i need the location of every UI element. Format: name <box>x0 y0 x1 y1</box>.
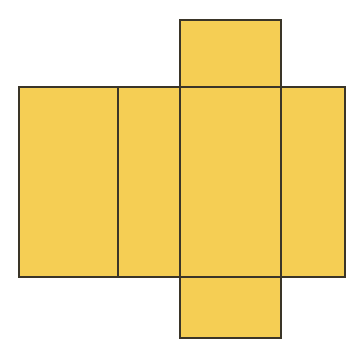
figure-canvas <box>0 0 364 355</box>
face-left-side <box>19 87 118 277</box>
face-front <box>180 87 281 277</box>
face-top <box>180 20 281 87</box>
face-right-side <box>281 87 345 277</box>
net-diagram <box>0 0 364 355</box>
face-bottom <box>180 277 281 338</box>
net-faces-group <box>19 20 345 338</box>
face-back <box>118 87 180 277</box>
